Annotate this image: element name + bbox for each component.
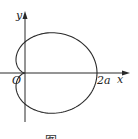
cardioid-diagram: y x O 2a 图	[0, 0, 138, 139]
origin-label: O	[12, 74, 21, 87]
x-axis-label: x	[117, 73, 124, 86]
figure-caption: 图	[45, 134, 57, 139]
y-axis-label: y	[15, 9, 23, 22]
x-intercept-label: 2a	[96, 74, 111, 87]
y-axis-arrow-icon	[23, 11, 28, 19]
